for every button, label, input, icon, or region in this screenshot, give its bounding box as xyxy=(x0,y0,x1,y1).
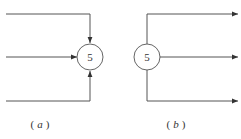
edge-a-incoming-bottom xyxy=(6,71,90,101)
diagram-a: 5 (a) xyxy=(6,14,103,131)
diagram-b: 5 (b) xyxy=(134,14,238,131)
caption-b: (b) xyxy=(167,118,186,131)
edge-b-outgoing-bottom xyxy=(147,70,238,101)
diagram-canvas: 5 (a) 5 (b) xyxy=(0,0,241,139)
node-b-label: 5 xyxy=(144,51,150,63)
caption-a: (a) xyxy=(31,118,50,131)
edge-b-outgoing-top xyxy=(147,14,238,44)
edge-a-incoming-top xyxy=(6,14,90,43)
node-a-label: 5 xyxy=(87,51,93,63)
